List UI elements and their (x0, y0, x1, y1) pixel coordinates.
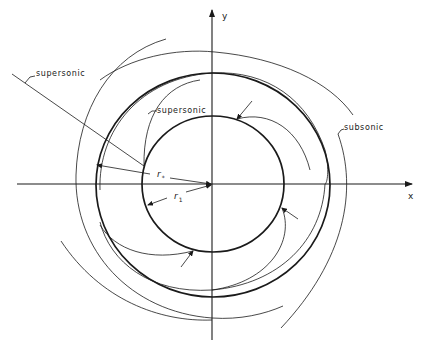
label-supersonic-inner: supersonic (157, 107, 206, 115)
r1-subscript: 1 (179, 196, 183, 203)
label-r1: r1 (174, 192, 182, 201)
outer-spiral-arm-right (100, 51, 353, 115)
r-star-arrow-right (170, 178, 211, 184)
streamline-lower-right (212, 208, 285, 290)
r-star-arrow-left (97, 165, 150, 174)
supersonic-outer-tick (25, 76, 35, 83)
r-star-subscript: * (162, 174, 165, 181)
outer-spiral-arm-right-lower (281, 134, 347, 328)
label-supersonic-outer: supersonic (36, 70, 85, 78)
y-axis-label: y (222, 12, 227, 21)
streamline-upper-left (144, 80, 200, 166)
supersonic-inner-tick (148, 111, 157, 114)
x-axis-label: x (408, 192, 413, 201)
far-outer-spiral-arm (61, 241, 212, 320)
flow-diagram (0, 0, 423, 347)
label-subsonic: subsonic (344, 124, 384, 132)
r1-main: r (174, 191, 178, 201)
r1-arrow-right (186, 185, 211, 192)
sonic-circle-r-star (96, 73, 330, 297)
label-r-star: r* (157, 170, 164, 179)
r1-arrow-left (148, 198, 167, 205)
middle-spiral-upper (100, 73, 328, 190)
streamline-lower-left (100, 225, 193, 255)
flow-arrow-upper (237, 101, 252, 119)
outer-spiral-arm-left (76, 39, 283, 318)
r-star-main: r (157, 169, 161, 179)
